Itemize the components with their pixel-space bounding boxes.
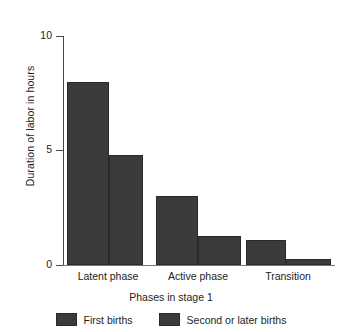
y-tick-label-5: 5: [46, 144, 52, 155]
legend-swatch-icon-first-births: [56, 313, 77, 326]
y-tick-10: [56, 36, 64, 37]
legend-swatch-icon-second-or-later-births: [159, 313, 180, 326]
legend-label-first-births: First births: [84, 314, 133, 326]
legend-label-second-or-later-births: Second or later births: [187, 314, 287, 326]
y-tick-label-5-wrap: 5: [0, 150, 52, 151]
x-tick-label-transition: Transition: [244, 270, 332, 282]
legend-item-first-births: First births: [56, 313, 133, 326]
y-tick-label-10-wrap: 10: [0, 36, 52, 37]
bar-latent-phase-second-or-later-births: [109, 155, 143, 265]
chart-legend: First births Second or later births: [0, 313, 342, 326]
y-tick-label-0-wrap: 0: [0, 265, 52, 266]
x-axis-title: Phases in stage 1: [0, 291, 342, 303]
x-tick-label-active-phase: Active phase: [154, 270, 242, 282]
y-axis-title: Duration of labor in hours: [24, 36, 36, 216]
bar-latent-phase-first-births: [67, 82, 109, 265]
y-tick-label-10: 10: [40, 30, 52, 41]
y-tick-label-0: 0: [46, 259, 52, 270]
plot-area: [64, 36, 335, 265]
x-tick-label-latent-phase: Latent phase: [64, 270, 152, 282]
bar-active-phase-first-births: [156, 196, 198, 265]
x-axis-line: [63, 265, 335, 266]
bar-transition-first-births: [246, 240, 286, 265]
y-tick-5: [56, 150, 64, 151]
bar-active-phase-second-or-later-births: [198, 236, 241, 265]
legend-item-second-or-later-births: Second or later births: [159, 313, 287, 326]
bar-chart: Duration of labor in hours 10 5 0 Latent…: [0, 0, 342, 332]
